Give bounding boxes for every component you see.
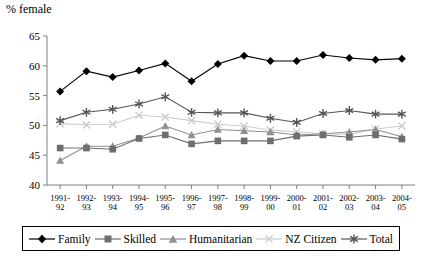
x-axis-tick-label: 97 [187,202,196,212]
legend-item-total[interactable]: Total [341,233,393,245]
square-data-point [241,138,248,145]
y-axis-tick-label: 50 [29,119,41,131]
triangle-marker-icon [160,233,186,245]
x-axis-tick-label: 05 [398,202,407,212]
square-data-point [215,138,222,145]
diamond-data-point [109,73,117,81]
square-data-point [346,134,353,141]
legend-item-nz-citizen[interactable]: NZ Citizen [256,233,336,245]
x-axis-tick-label: 04 [371,202,380,212]
x-axis-tick-label: 02 [319,202,328,212]
legend-item-family[interactable]: Family [29,233,91,245]
series-humanitarian [56,122,406,164]
square-data-point [162,132,169,139]
square-data-point [293,133,300,140]
square-data-point [109,146,116,153]
diamond-data-point [161,59,169,67]
diamond-data-point [188,77,196,85]
y-axis-tick-label: 40 [29,179,41,191]
diamond-data-point [266,57,274,65]
legend-label-skilled: Skilled [124,233,157,245]
legend-label-family: Family [58,233,91,245]
diamond-data-point [240,52,248,60]
x-axis-tick-label: 92 [56,202,65,212]
legend-item-skilled[interactable]: Skilled [95,233,157,245]
y-axis-tick-label: 55 [29,90,41,102]
square-data-point [320,132,327,139]
x-axis-tick-label: 03 [345,202,354,212]
series-total [56,92,406,126]
y-axis-tick-label: 60 [29,60,41,72]
square-data-point [372,132,379,139]
square-data-point [267,138,274,145]
square-data-point [57,145,64,152]
x-axis-tick-label: 98 [214,202,223,212]
x-axis-tick-label: 99 [240,202,249,212]
legend-item-humanitarian[interactable]: Humanitarian [160,233,252,245]
x-axis-tick-label: 96 [161,202,170,212]
diamond-data-point [319,51,327,59]
diamond-data-point [135,67,143,75]
y-axis-tick-label: 65 [29,30,41,42]
diamond-data-point [398,55,406,63]
legend-label-humanitarian: Humanitarian [189,233,252,245]
legend-label-total: Total [370,233,393,245]
legend-label-nz-citizen: NZ Citizen [285,233,336,245]
x-axis-tick-label: 00 [266,202,275,212]
triangle-data-point [56,157,64,164]
x-axis-tick-label: 94 [108,202,117,212]
diamond-marker-icon [29,233,55,245]
triangle-data-point [161,122,169,129]
square-marker-icon [95,233,121,245]
cross-marker-icon [256,233,282,245]
diamond-data-point [293,57,301,65]
asterisk-data-point [161,92,169,101]
series-family [56,51,406,95]
series-nz-citizen [57,112,406,138]
asterisk-marker-icon [341,233,367,245]
square-data-point [188,141,195,148]
diamond-data-point [345,54,353,62]
diamond-data-point [372,56,380,64]
chart-container: % female 4045505560651991-921992-931993-… [0,0,424,259]
x-axis-tick-label: 95 [135,202,144,212]
y-axis-tick-label: 45 [29,149,41,161]
plot-area: 4045505560651991-921992-931993-941994-95… [0,0,424,259]
x-axis-tick-label: 93 [82,202,91,212]
square-data-point [399,136,406,143]
square-data-point [83,145,90,152]
chart-svg: 4045505560651991-921992-931993-941994-95… [0,0,424,259]
diamond-data-point [214,60,222,68]
square-data-point [136,135,143,142]
chart-legend: Family Skilled Humanitarian NZ Citizen [22,226,400,251]
x-axis-tick-label: 01 [292,202,301,212]
